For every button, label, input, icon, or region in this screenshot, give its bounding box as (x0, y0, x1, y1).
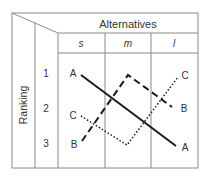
rank-1: 1 (43, 68, 49, 79)
label-left-rank1: A (70, 68, 77, 79)
rank-2: 2 (43, 103, 49, 114)
table-grid (12, 13, 198, 168)
column-header-m: m (124, 38, 132, 49)
label-left-rank2: C (69, 110, 76, 121)
series-a-line (81, 75, 176, 146)
label-right-rank1: C (181, 70, 188, 81)
ranking-diagram: Alternatives s m l Ranking 1 2 3 A C B C… (0, 0, 207, 179)
rank-3: 3 (43, 138, 49, 149)
alternatives-title: Alternatives (99, 18, 157, 30)
label-right-rank2: B (181, 103, 188, 114)
label-left-rank3: B (71, 139, 78, 150)
label-right-rank3: A (182, 142, 189, 153)
column-header-s: s (79, 38, 84, 49)
ranking-title: Ranking (17, 86, 29, 125)
column-header-l: l (173, 38, 176, 49)
